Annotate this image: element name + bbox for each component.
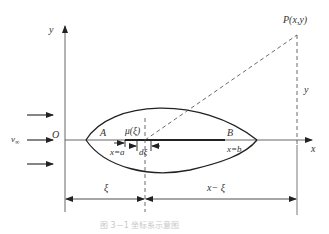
airfoil-coordinate-diagram: y x O v∞ A B μ(ξ) x=a dξ x=b P(x,y) y ξ … bbox=[0, 0, 329, 234]
trailing-position-label: x=b bbox=[226, 144, 242, 154]
trailing-point-label: B bbox=[227, 127, 233, 138]
figure-caption: 图 3－1 坐标系示意图 bbox=[100, 220, 179, 230]
x-axis-label: x bbox=[310, 143, 316, 154]
freestream-velocity-label: v∞ bbox=[11, 134, 20, 145]
x-minus-xi-dimension-label: x− ξ bbox=[206, 182, 226, 194]
ray-to-point-p bbox=[145, 35, 297, 140]
point-height-label: y bbox=[303, 84, 309, 95]
leading-position-label: x=a bbox=[109, 147, 125, 157]
element-label: dξ bbox=[139, 147, 148, 157]
source-strength-label: μ(ξ) bbox=[124, 126, 140, 137]
leading-point-label: A bbox=[99, 127, 107, 138]
origin-label: O bbox=[52, 129, 59, 140]
point-p-label: P(x,y) bbox=[282, 14, 308, 26]
xi-dimension-label: ξ bbox=[104, 182, 109, 194]
y-axis-label: y bbox=[48, 24, 54, 35]
